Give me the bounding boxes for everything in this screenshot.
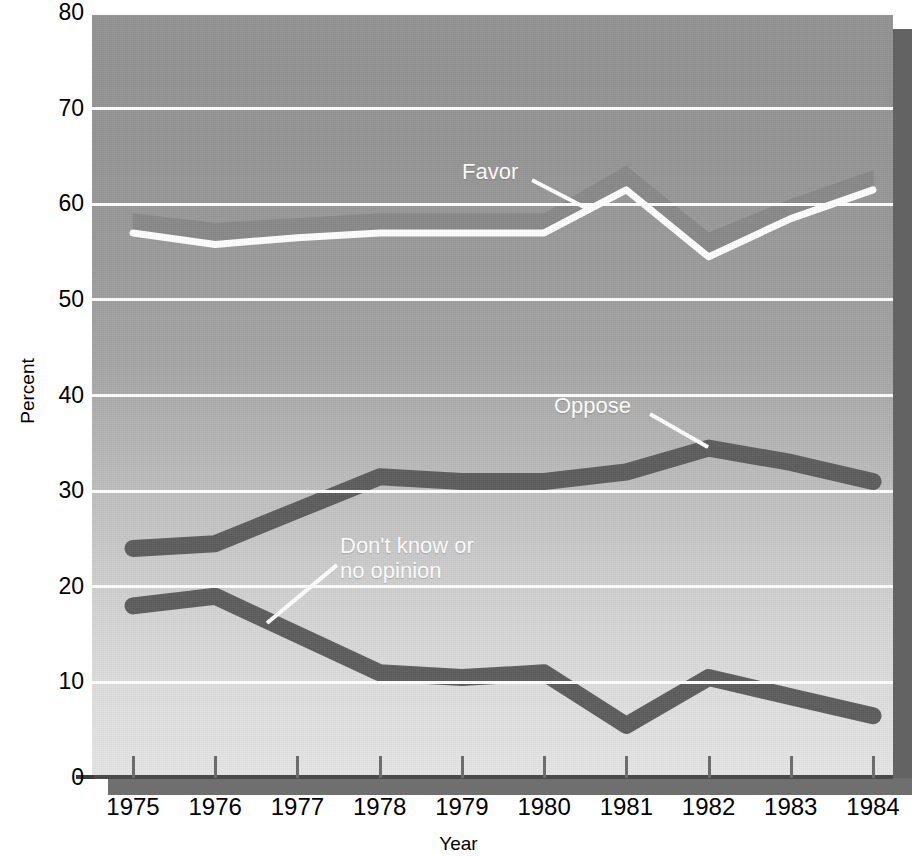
y-tick-label-30: 30 [10,479,84,502]
x-tick-mark-1982 [708,756,711,778]
gridline-10 [92,681,893,684]
annotation-dont-know: Don't know orno opinion [340,534,474,583]
y-tick-label-20: 20 [10,575,84,598]
oppose-line [133,448,873,548]
x-tick-label-1982: 1982 [664,793,754,821]
y-tick-label-60: 60 [10,192,84,215]
x-tick-label-1980: 1980 [499,793,589,821]
gridline-70 [92,107,893,110]
x-tick-mark-1975 [132,756,135,778]
y-axis-title: Percent [17,331,39,451]
annotation-oppose: Oppose [554,394,631,419]
gridline-40 [92,394,893,397]
annotation-favor-line1: Favor [462,160,518,185]
x-tick-mark-1983 [790,756,793,778]
x-tick-label-1984: 1984 [828,793,917,821]
x-tick-mark-1977 [296,756,299,778]
x-tick-label-1983: 1983 [746,793,836,821]
annotation-favor: Favor [462,160,518,185]
x-tick-mark-1978 [379,756,382,778]
plot-area: FavorOpposeDon't know orno opinion [92,13,893,778]
gridline-50 [92,298,893,301]
dont-know-line [133,596,873,725]
x-tick-label-1981: 1981 [581,793,671,821]
gridline-30 [92,490,893,493]
x-tick-mark-1984 [872,756,875,778]
x-axis-line [92,775,893,779]
x-tick-label-1975: 1975 [88,793,178,821]
annotation-dont-know-line2: no opinion [340,559,474,584]
chart-figure: FavorOpposeDon't know orno opinion 80706… [0,0,917,856]
y-tick-label-10: 10 [10,670,84,693]
y-tick-label-50: 50 [10,288,84,311]
series-oppose [133,448,873,548]
annotation-oppose-line1: Oppose [554,394,631,419]
x-tick-label-1977: 1977 [252,793,342,821]
gridline-20 [92,585,893,588]
y-axis-ticks: 80706050403020100 [0,0,84,800]
y-tick-label-70: 70 [10,97,84,120]
x-tick-label-1976: 1976 [170,793,260,821]
x-tick-mark-1976 [214,756,217,778]
y-tick-label-0: 0 [10,766,84,789]
x-tick-label-1978: 1978 [335,793,425,821]
y-tick-label-80: 80 [10,1,84,24]
x-tick-mark-1980 [543,756,546,778]
annotation-dont-know-line1: Don't know or [340,534,474,559]
x-tick-mark-1979 [461,756,464,778]
gridline-80 [92,13,893,15]
series-dont-know [133,596,873,725]
plot-shadow-right [893,29,912,786]
gridline-60 [92,203,893,206]
x-tick-label-1979: 1979 [417,793,507,821]
x-tick-mark-1981 [625,756,628,778]
x-axis-title: Year [0,833,917,855]
